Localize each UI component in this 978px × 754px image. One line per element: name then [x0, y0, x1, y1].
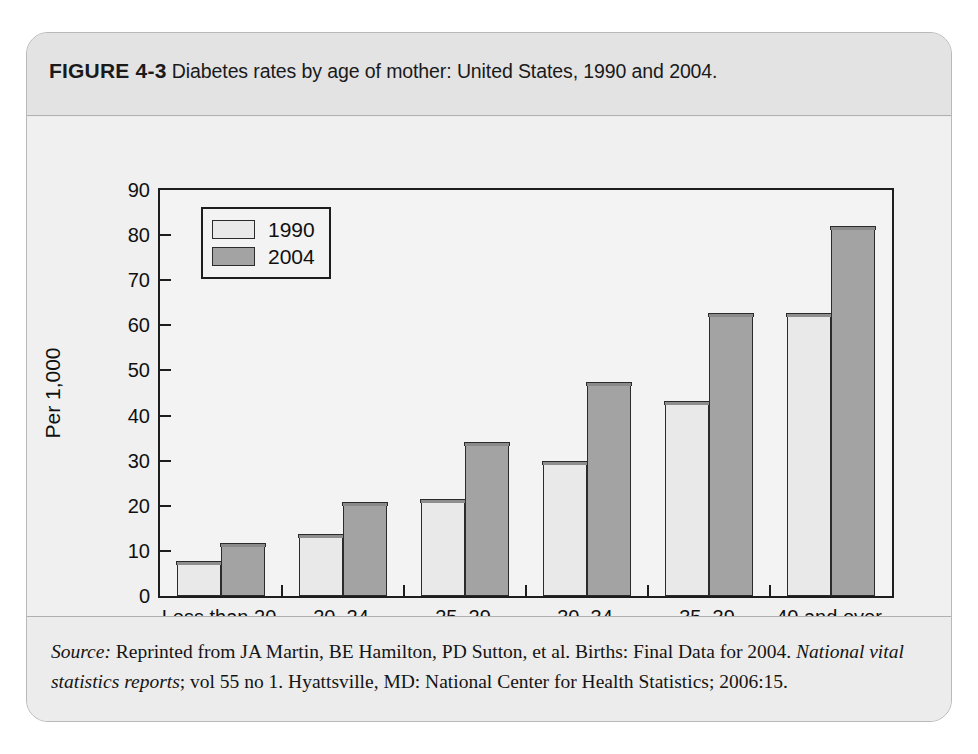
y-axis-tick-label: 10	[128, 539, 150, 562]
legend-swatch-1990-icon	[212, 220, 255, 239]
legend-item-2004: 2004	[212, 243, 315, 270]
bar-top-shadow	[786, 313, 831, 317]
y-axis-tick-label: 20	[128, 494, 150, 517]
bar-top-shadow	[464, 442, 509, 446]
legend-label-2004: 2004	[268, 246, 315, 267]
bar-2004-25–29	[465, 445, 509, 596]
bar-top-shadow	[298, 534, 343, 538]
y-axis-tick	[160, 324, 171, 326]
bar-top-shadow	[420, 499, 465, 503]
figure-label: FIGURE 4-3	[49, 59, 167, 82]
legend-swatch-2004-icon	[212, 247, 255, 266]
y-axis-title: Per 1,000	[41, 347, 65, 438]
plot-frame: 0102030405060708090 1990 2004	[158, 188, 894, 598]
y-axis-tick-label: 70	[128, 269, 150, 292]
x-axis-tick	[769, 585, 771, 596]
figure-source: Source: Reprinted from JA Martin, BE Ham…	[27, 616, 951, 721]
y-axis-tick	[160, 460, 171, 462]
y-axis-tick	[160, 415, 171, 417]
bar-2004-40-and-over	[831, 229, 875, 596]
bar-top-shadow	[664, 401, 709, 405]
bar-1990-25–29	[421, 502, 465, 596]
legend-item-1990: 1990	[212, 216, 315, 243]
bar-top-shadow	[176, 561, 221, 565]
y-axis-tick-label: 0	[139, 585, 150, 608]
figure-card: FIGURE 4-3 Diabetes rates by age of moth…	[26, 32, 952, 722]
figure-caption-text: Diabetes rates by age of mother: United …	[172, 60, 718, 82]
bar-2004-20–24	[343, 505, 387, 596]
bar-top-shadow	[586, 382, 631, 386]
y-axis-tick	[160, 234, 171, 236]
y-axis-tick-label: 50	[128, 359, 150, 382]
bar-1990-less-than-20	[177, 564, 221, 596]
y-axis-tick	[160, 505, 171, 507]
chart-area: Per 1,000 0102030405060708090 1990 2004	[27, 117, 952, 669]
bar-top-shadow	[830, 226, 875, 230]
x-axis-tick	[647, 585, 649, 596]
y-axis-tick-label: 30	[128, 449, 150, 472]
chart-body: Per 1,000 0102030405060708090 1990 2004	[27, 117, 951, 669]
source-part-1: Reprinted from JA Martin, BE Hamilton, P…	[111, 641, 796, 662]
x-axis-tick	[403, 585, 405, 596]
bar-2004-30–34	[587, 385, 631, 596]
x-axis-tick	[281, 585, 283, 596]
figure-header: FIGURE 4-3 Diabetes rates by age of moth…	[27, 33, 951, 116]
chart-legend: 1990 2004	[201, 207, 331, 279]
source-prefix: Source:	[51, 641, 111, 662]
y-axis-tick	[160, 279, 171, 281]
bar-1990-35–39	[665, 404, 709, 596]
bar-1990-30–34	[543, 464, 587, 596]
source-text: Source: Reprinted from JA Martin, BE Ham…	[51, 637, 925, 696]
y-axis-tick-label: 90	[128, 179, 150, 202]
bar-1990-40-and-over	[787, 316, 831, 596]
legend-label-1990: 1990	[268, 219, 315, 240]
y-axis-tick-label: 80	[128, 224, 150, 247]
x-axis-tick	[525, 585, 527, 596]
figure-caption: FIGURE 4-3 Diabetes rates by age of moth…	[49, 59, 931, 83]
bar-1990-20–24	[299, 537, 343, 596]
y-axis-tick	[160, 369, 171, 371]
source-part-2: ; vol 55 no 1. Hyattsville, MD: National…	[180, 671, 788, 692]
bar-top-shadow	[342, 502, 387, 506]
bar-2004-35–39	[709, 316, 753, 596]
bar-top-shadow	[220, 543, 265, 547]
y-axis-tick-label: 40	[128, 404, 150, 427]
y-axis-tick	[160, 550, 171, 552]
bar-2004-less-than-20	[221, 546, 265, 596]
bar-top-shadow	[708, 313, 753, 317]
bar-top-shadow	[542, 461, 587, 465]
y-axis-tick-label: 60	[128, 314, 150, 337]
